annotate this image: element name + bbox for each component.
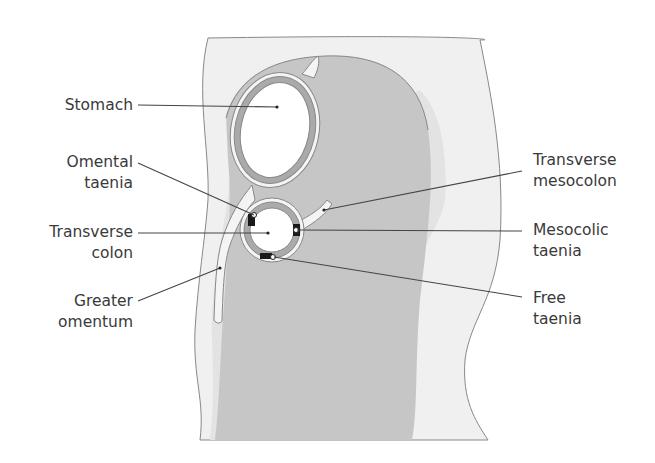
label-stomach-line1: Stomach <box>65 95 133 116</box>
label-free-taenia-line1: Free <box>533 288 582 309</box>
label-omental-taenia: Omental taenia <box>66 152 133 194</box>
label-free-taenia-line2: taenia <box>533 309 582 330</box>
label-transverse-colon: Transverse colon <box>49 222 133 264</box>
label-greater-omentum-line2: omentum <box>58 312 133 333</box>
label-omental-taenia-line2: taenia <box>66 173 133 194</box>
label-transverse-colon-line2: colon <box>49 243 133 264</box>
label-transverse-colon-line1: Transverse <box>49 222 133 243</box>
label-mesocolic-taenia: Mesocolic taenia <box>533 220 609 262</box>
label-transverse-mesocolon-line1: Transverse <box>533 150 617 171</box>
label-transverse-mesocolon-line2: mesocolon <box>533 171 617 192</box>
label-mesocolic-taenia-line1: Mesocolic <box>533 220 609 241</box>
label-stomach: Stomach <box>65 95 133 116</box>
label-free-taenia: Free taenia <box>533 288 582 330</box>
label-transverse-mesocolon: Transverse mesocolon <box>533 150 617 192</box>
label-omental-taenia-line1: Omental <box>66 152 133 173</box>
label-greater-omentum-line1: Greater <box>58 291 133 312</box>
label-greater-omentum: Greater omentum <box>58 291 133 333</box>
label-mesocolic-taenia-line2: taenia <box>533 241 609 262</box>
